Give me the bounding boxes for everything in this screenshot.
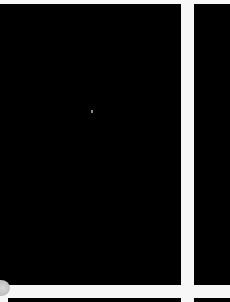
image-tile-dark-right[interactable]	[194, 4, 230, 285]
image-gallery-grid	[0, 0, 230, 302]
image-speck	[91, 110, 93, 113]
image-tile-dark[interactable]	[0, 4, 181, 285]
image-tile-next-row-right[interactable]	[194, 298, 230, 302]
image-tile-next-row-left[interactable]	[8, 298, 181, 302]
